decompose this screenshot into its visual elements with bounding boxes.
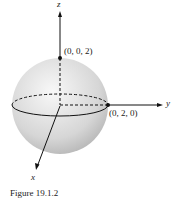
z-arrow-icon bbox=[58, 11, 62, 17]
point-top bbox=[58, 56, 62, 60]
point-y bbox=[106, 103, 110, 107]
x-axis-label: x bbox=[31, 172, 35, 182]
z-axis-label: z bbox=[57, 0, 61, 9]
point-y-label: (0, 2, 0) bbox=[109, 108, 138, 118]
point-top-label: (0, 0, 2) bbox=[64, 46, 93, 56]
figure-caption: Figure 19.1.2 bbox=[10, 188, 58, 198]
x-arrow-icon bbox=[35, 163, 40, 170]
sphere-diagram bbox=[0, 0, 179, 203]
y-axis-label: y bbox=[166, 98, 170, 108]
y-arrow-icon bbox=[157, 103, 163, 107]
